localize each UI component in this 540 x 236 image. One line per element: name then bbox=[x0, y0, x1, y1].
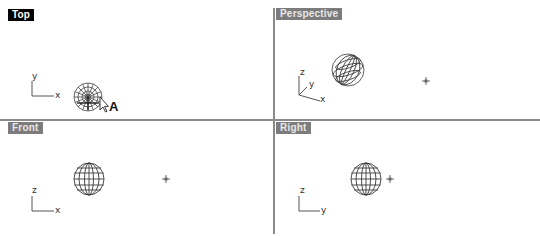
axis-label-top-vertical: y bbox=[32, 72, 37, 81]
axis-icon-front bbox=[32, 196, 54, 211]
axis-label-perspective-horizontal: x bbox=[320, 95, 325, 104]
pivot-widget-icon bbox=[77, 97, 99, 110]
axis-label-front-horizontal: x bbox=[55, 206, 60, 215]
axis-label-perspective-depth: y bbox=[309, 80, 314, 89]
axis-label-perspective-vertical: z bbox=[300, 68, 305, 77]
cursor-annotation-label: A bbox=[109, 100, 118, 113]
crosshair-icon bbox=[386, 175, 394, 183]
axis-icon-top bbox=[32, 81, 54, 96]
axis-label-front-vertical: z bbox=[32, 186, 37, 195]
axis-icon-right bbox=[299, 196, 320, 211]
viewport-graphics bbox=[0, 0, 540, 236]
sphere-right bbox=[351, 163, 381, 195]
sphere-front bbox=[74, 163, 104, 195]
mouse-cursor-icon bbox=[100, 97, 109, 112]
sphere-perspective bbox=[331, 51, 364, 88]
axis-label-right-horizontal: y bbox=[321, 206, 326, 215]
crosshair-icon bbox=[162, 175, 170, 183]
crosshair-icon bbox=[422, 77, 430, 85]
axis-label-right-vertical: z bbox=[300, 186, 305, 195]
origin-markers bbox=[162, 77, 430, 183]
axis-label-top-horizontal: x bbox=[55, 91, 60, 100]
